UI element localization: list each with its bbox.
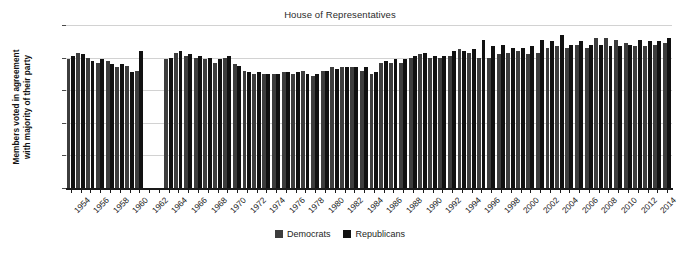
bar [237,66,241,188]
bar [579,41,583,188]
x-axis-tick-mark [169,188,170,193]
bar-series-group [66,25,672,188]
bar [604,38,608,188]
x-axis-tick-label: 1976 [287,195,307,215]
bar [491,46,495,188]
bar [115,67,119,188]
bar [272,74,276,188]
bar [218,59,222,188]
bar [413,56,417,188]
bar [599,45,603,188]
x-axis-tick-mark [159,188,160,193]
bar [130,72,134,188]
legend-item[interactable]: Republicans [343,229,405,239]
bar [399,63,403,189]
bar [252,74,256,188]
x-axis-tick-label: 2000 [521,195,541,215]
bar [364,67,368,188]
x-axis-tick-label: 1966 [189,195,209,215]
x-axis-tick-mark [305,188,306,193]
x-axis-tick-mark [71,188,72,193]
x-axis-tick-mark [227,188,228,193]
x-axis-tick-mark [247,188,248,193]
bar [477,58,481,188]
bar [125,66,129,188]
x-axis-tick-label: 1994 [462,195,482,215]
chart-title: House of Representatives [0,9,680,20]
bar [325,71,329,188]
bar [448,56,452,188]
bar [663,43,667,188]
bar [243,71,247,188]
bar [516,51,520,188]
bar [472,49,476,188]
chart-screenshot: House of Representatives Members voted i… [0,0,680,258]
bar [139,51,143,188]
bar [276,74,280,188]
x-axis-tick-mark [218,188,219,193]
bar [71,56,75,188]
bar [526,54,530,188]
bar [194,58,198,188]
x-axis-tick-mark [511,188,512,193]
bar [384,61,388,188]
x-axis-tick-mark [130,188,131,193]
x-axis-tick-mark [403,188,404,193]
x-axis-tick-mark [550,188,551,193]
x-axis-tick-mark [178,188,179,193]
bar [594,38,598,188]
bar [643,46,647,188]
x-axis-tick-mark [149,188,150,193]
bar [266,74,270,188]
x-axis-tick-mark [198,188,199,193]
bar [120,64,124,188]
bar [96,63,100,189]
x-axis-tick-mark [237,188,238,193]
bar [330,67,334,188]
bar [458,49,462,188]
x-axis-tick-mark [618,188,619,193]
bar [315,74,319,188]
x-axis-tick-label: 1970 [228,195,248,215]
x-axis-tick-mark [413,188,414,193]
bar [354,67,358,188]
bar [462,51,466,188]
bar [321,71,325,188]
bar [609,46,613,188]
legend-item[interactable]: Democrats [275,229,331,239]
bar [100,59,104,188]
bar [282,72,286,188]
x-axis-tick-label: 1982 [345,195,365,215]
bar [624,43,628,188]
bar [521,48,525,188]
x-axis-tick-label: 1998 [502,195,522,215]
bar [350,67,354,188]
x-axis-tick-label: 2004 [560,195,580,215]
bar [433,56,437,188]
bar [247,72,251,188]
x-axis-tick-mark [120,188,121,193]
bar [511,48,515,188]
x-axis-tick-mark [423,188,424,193]
bar [565,48,569,188]
x-axis-tick-mark [393,188,394,193]
bar [81,54,85,188]
x-axis-tick-mark [521,188,522,193]
x-axis-tick-mark [90,188,91,193]
x-axis-tick-mark [560,188,561,193]
bar [203,59,207,188]
bar [106,61,110,188]
bar [257,72,261,188]
bar [628,45,632,188]
bar [198,56,202,188]
x-axis-ticks: 1954195619581960196219641966196819701972… [66,188,673,196]
bar [403,59,407,188]
x-axis-tick-label: 1974 [267,195,287,215]
x-axis-tick-mark [296,188,297,193]
legend-swatch-icon [275,230,283,238]
bar [530,46,534,188]
legend-label: Republicans [355,229,405,239]
x-axis-tick-mark [540,188,541,193]
bar [86,58,90,188]
bar [223,58,227,188]
